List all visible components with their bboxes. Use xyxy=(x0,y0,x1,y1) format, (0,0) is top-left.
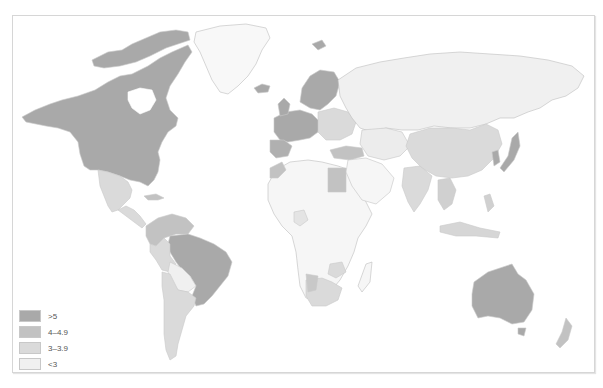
scandinavia-region xyxy=(300,70,340,110)
madagascar-region xyxy=(358,262,372,292)
turkey-region xyxy=(330,146,364,160)
legend-swatch-lt3 xyxy=(19,358,41,370)
legend-label: <3 xyxy=(48,360,57,369)
central-america-region xyxy=(118,206,146,228)
legend-label: 4–4.9 xyxy=(48,328,68,337)
korea-region xyxy=(492,150,500,166)
indonesia-region xyxy=(440,222,500,238)
legend-item: 4–4.9 xyxy=(19,324,68,340)
egypt-region xyxy=(328,168,346,192)
iceland-region xyxy=(254,84,270,93)
namibia-region xyxy=(306,274,318,292)
central-asia-region xyxy=(360,128,410,160)
greenland-region xyxy=(194,24,270,94)
legend-swatch-3-3.9 xyxy=(19,342,41,354)
southeast-asia-region xyxy=(438,178,456,210)
japan-region xyxy=(500,132,520,172)
map-legend: >5 4–4.9 3–3.9 <3 xyxy=(19,308,68,372)
australia-region xyxy=(472,264,534,324)
legend-label: >5 xyxy=(48,312,57,321)
legend-item: <3 xyxy=(19,356,68,372)
russia-region xyxy=(338,52,584,132)
svalbard-region xyxy=(312,40,326,50)
world-map xyxy=(0,0,603,388)
legend-item: >5 xyxy=(19,308,68,324)
legend-label: 3–3.9 xyxy=(48,344,68,353)
legend-swatch-4-4.9 xyxy=(19,326,41,338)
india-region xyxy=(402,166,432,212)
uk-region xyxy=(278,98,290,116)
legend-swatch-gt5 xyxy=(19,310,41,322)
new-zealand-region xyxy=(556,318,572,348)
tasmania-region xyxy=(518,328,526,336)
iberia-region xyxy=(270,140,292,158)
legend-item: 3–3.9 xyxy=(19,340,68,356)
philippines-region xyxy=(484,194,494,212)
caribbean-region xyxy=(144,194,164,200)
